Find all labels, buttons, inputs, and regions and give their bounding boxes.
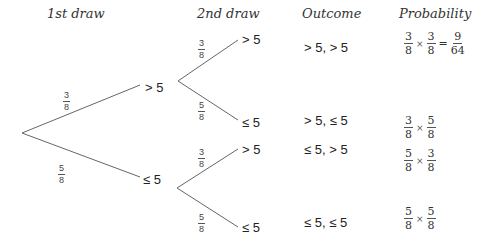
branch-prob-first-le5: 58 (58, 164, 65, 185)
node-gt5-le5: ≤ 5 (242, 115, 260, 130)
branch-line-first-le5 (22, 133, 140, 177)
branch-line-gt5-le5 (178, 81, 238, 120)
branch-prob-gt5-le5: 58 (198, 101, 205, 122)
header-outcome: Outcome (302, 6, 361, 21)
branch-prob-first-gt5: 38 (63, 91, 70, 112)
node-le5-gt5: > 5 (242, 142, 260, 157)
branch-prob-gt5-gt5: 38 (198, 39, 205, 60)
node-gt5-gt5: > 5 (242, 32, 260, 47)
probability-3: 58 × 38 (404, 148, 436, 173)
branch-prob-le5-le5: 58 (198, 213, 205, 234)
times-sign: × (416, 156, 424, 166)
outcome-1: > 5, > 5 (304, 40, 348, 55)
outcome-2: > 5, ≤ 5 (304, 113, 348, 128)
branch-line-gt5-gt5 (178, 40, 238, 81)
outcome-4: ≤ 5, ≤ 5 (304, 215, 347, 230)
equals-sign: = (439, 37, 448, 50)
outcome-3: ≤ 5, > 5 (304, 142, 348, 157)
branch-prob-le5-gt5: 38 (198, 148, 205, 169)
probability-4: 58 × 58 (404, 206, 436, 231)
header-probability: Probability (399, 6, 471, 21)
probability-2: 38 × 58 (404, 115, 436, 140)
node-first-gt5: > 5 (145, 80, 163, 95)
times-sign: × (416, 214, 424, 224)
probability-1: 38 × 38 = 964 (404, 31, 465, 56)
branch-line-first-gt5 (22, 85, 140, 133)
header-first-draw: 1st draw (47, 6, 105, 21)
branch-line-le5-le5 (177, 188, 238, 227)
branch-line-le5-gt5 (177, 149, 238, 188)
node-first-le5: ≤ 5 (143, 172, 161, 187)
header-second-draw: 2nd draw (197, 6, 260, 21)
times-sign: × (416, 123, 424, 133)
times-sign: × (416, 39, 424, 49)
node-le5-le5: ≤ 5 (242, 220, 260, 235)
